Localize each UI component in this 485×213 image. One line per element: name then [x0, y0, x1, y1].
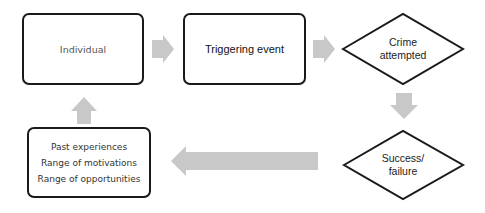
- crime-attempted-line2: attempted: [363, 49, 443, 62]
- individual-label: Individual: [60, 44, 106, 55]
- arrow-up-icon: [71, 97, 97, 124]
- crime-attempted-label: Crime attempted: [363, 36, 443, 62]
- success-failure-line2: failure: [364, 165, 442, 178]
- feedback-line-past-experiences: Past experiences: [51, 139, 127, 155]
- arrow-right-icon: [313, 35, 335, 63]
- arrow-right-icon: [152, 35, 174, 63]
- flowchart-canvas: Individual Triggering event Crime attemp…: [0, 0, 485, 213]
- success-failure-label: Success/ failure: [364, 152, 442, 178]
- triggering-event-label: Triggering event: [205, 43, 284, 55]
- success-failure-line1: Success/: [364, 152, 442, 165]
- arrow-left-icon: [171, 146, 318, 176]
- arrow-down-icon: [390, 93, 418, 119]
- crime-attempted-line1: Crime: [363, 36, 443, 49]
- individual-node: Individual: [22, 13, 144, 85]
- feedback-node: Past experiences Range of motivations Ra…: [27, 127, 151, 198]
- feedback-line-range-of-motivations: Range of motivations: [41, 155, 137, 171]
- feedback-line-range-of-opportunities: Range of opportunities: [38, 171, 141, 187]
- triggering-event-node: Triggering event: [183, 13, 306, 85]
